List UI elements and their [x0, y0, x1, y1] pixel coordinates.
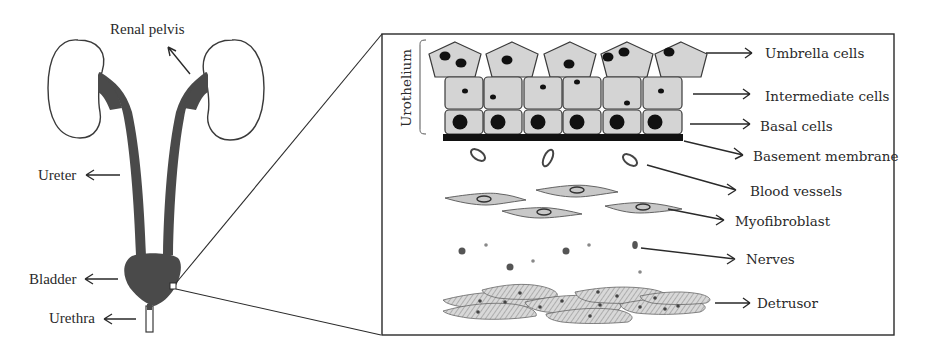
myofibroblasts — [445, 185, 682, 218]
umbrella-cell — [544, 42, 596, 77]
arrow-nerves — [641, 248, 735, 264]
arrow-detrusor — [715, 298, 750, 308]
arrow-umbrella-cells — [706, 48, 752, 58]
label-umbrella-cells: Umbrella cells — [765, 45, 864, 61]
arrow-ureter — [86, 170, 120, 180]
label-myofibroblast: Myofibroblast — [735, 213, 831, 229]
umbrella-cell — [601, 42, 653, 77]
label-urethra: Urethra — [49, 310, 95, 326]
label-bladder: Bladder — [29, 271, 76, 287]
basement-membrane — [443, 134, 683, 141]
arrow-intermediate-cells — [693, 89, 750, 99]
bladder — [124, 253, 181, 306]
zoom-region-marker — [170, 283, 176, 289]
basal-cell-layer — [445, 110, 682, 134]
zoom-line-bottom — [176, 289, 381, 335]
urinary-tract-illustration — [48, 40, 264, 332]
umbrella-cell-layer — [429, 42, 707, 77]
label-blood-vessels: Blood vessels — [750, 183, 842, 199]
urothelium-bracket: Urothelium — [398, 40, 426, 134]
myofibroblast-cell — [605, 203, 682, 213]
myofibroblast-cell — [502, 208, 582, 218]
left-kidney — [48, 40, 104, 138]
detrusor-muscle — [443, 284, 710, 323]
label-renal-pelvis: Renal pelvis — [110, 21, 185, 37]
arrow-bladder — [85, 274, 118, 284]
label-detrusor: Detrusor — [757, 295, 818, 311]
arrow-basal-cells — [690, 119, 750, 129]
myofibroblast-cell — [536, 185, 618, 197]
label-ureter: Ureter — [38, 167, 76, 183]
zoom-line-top — [176, 34, 382, 283]
label-nerves: Nerves — [746, 251, 795, 267]
label-basement-membrane: Basement membrane — [753, 148, 899, 164]
urinary-tract-diagram: Renal pelvis Ureter Bladder Urethra Urot… — [0, 0, 925, 353]
myofibroblast-cell — [445, 193, 526, 205]
arrow-basement-membrane — [684, 141, 743, 159]
intermediate-cell-layer — [445, 77, 682, 109]
arrow-blood-vessels — [647, 165, 736, 195]
arrow-renal-pelvis — [168, 47, 190, 74]
arrow-myofibroblast — [668, 209, 724, 225]
umbrella-cell — [429, 42, 481, 77]
umbrella-cell — [486, 42, 538, 77]
umbrella-cell — [655, 42, 707, 77]
right-kidney — [203, 40, 264, 140]
label-intermediate-cells: Intermediate cells — [765, 88, 890, 104]
arrow-urethra — [104, 314, 136, 324]
nerves — [459, 241, 642, 274]
blood-vessels — [469, 147, 639, 169]
label-basal-cells: Basal cells — [760, 118, 833, 134]
label-urothelium: Urothelium — [398, 49, 414, 127]
